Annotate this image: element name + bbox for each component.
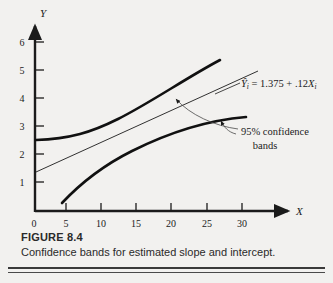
figure-number: FIGURE 8.4 (21, 231, 83, 243)
x-tick-labels: 0 5 10 15 20 25 30 (32, 218, 248, 229)
confidence-bands-label-line1: 95% confidence (241, 126, 309, 137)
y-tick-label: 1 (20, 177, 25, 188)
figure-caption: Confidence bands for estimated slope and… (21, 246, 275, 258)
y-tick-labels: 6 5 4 3 2 1 (20, 37, 25, 188)
x-axis: X 0 5 10 15 20 25 30 (32, 203, 305, 229)
y-tick-label: 2 (20, 149, 25, 160)
y-tick-label: 5 (20, 65, 25, 76)
y-axis: Y 6 5 4 3 2 1 (20, 7, 49, 212)
x-tick-label: 30 (237, 218, 247, 229)
x-tick-label: 20 (166, 218, 176, 229)
x-tick-label: 10 (96, 218, 106, 229)
confidence-bands-label-line2: bands (253, 140, 278, 151)
footer-rule-top (8, 267, 325, 269)
x-tick-label: 25 (202, 218, 212, 229)
x-tick-label: 15 (131, 218, 141, 229)
regression-line (36, 71, 258, 172)
footer-rule-bottom (8, 272, 325, 273)
x-tick-label: 5 (64, 218, 69, 229)
regression-equation-label: Ŷi = 1.375 + .12Xi (241, 78, 317, 91)
y-tick-label: 6 (20, 37, 25, 48)
x-tick-label: 0 (32, 218, 37, 229)
y-axis-ticks (35, 42, 44, 182)
x-axis-label: X (295, 205, 304, 217)
y-tick-label: 4 (20, 93, 25, 104)
y-axis-label: Y (40, 7, 48, 19)
y-tick-label: 3 (20, 121, 25, 132)
figure-panel: Y 6 5 4 3 2 1 X (0, 0, 333, 283)
